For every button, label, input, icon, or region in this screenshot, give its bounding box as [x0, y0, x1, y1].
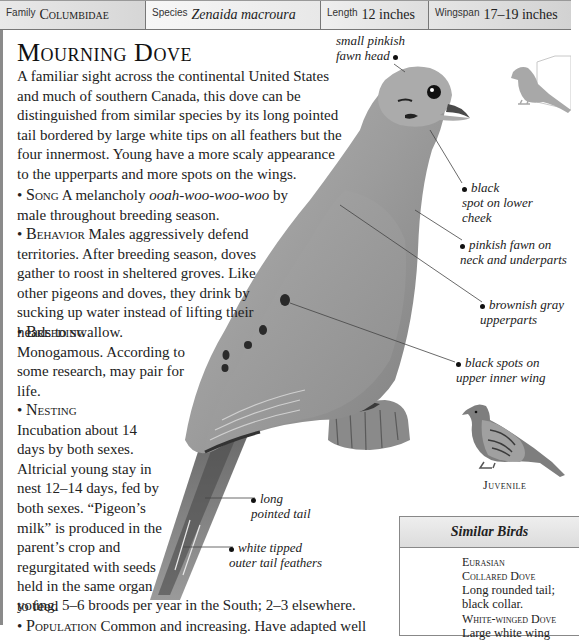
length-value: 12 inches — [362, 7, 415, 23]
annotation-dot-icon — [229, 547, 234, 552]
annotation-dot-icon — [462, 187, 467, 192]
similar-bird-description: Large white wing — [462, 626, 577, 640]
annotation-upperparts: brownish gray upperparts — [480, 297, 564, 327]
behavior-bullet: • — [17, 226, 22, 242]
similar-bird-description: Long rounded tail; black collar. — [462, 583, 577, 611]
annotation-cheek-line2: spot on lower — [462, 195, 533, 210]
page-title: Mourning Dove — [17, 38, 192, 68]
section-song: • Song A melancholy ooah-woo-woo-woo by … — [17, 185, 307, 225]
length-label: Length — [327, 7, 358, 18]
annotation-head: small pinkish fawn head — [336, 33, 405, 63]
page-left-border — [0, 0, 3, 625]
breeding-heading: Breeding — [26, 323, 85, 340]
annotation-tail-line2: pointed tail — [251, 506, 311, 521]
breeding-bullet: • — [17, 324, 22, 340]
nesting-text-continued: young. 5–6 broods per year in the South;… — [17, 596, 417, 616]
perch-stump-icon — [328, 400, 410, 450]
breeding-text: Monogamous. According to some research, … — [17, 344, 185, 399]
annotation-neck-line1: pinkish fawn on — [460, 237, 567, 252]
annotation-tail: long pointed tail — [251, 491, 311, 521]
section-nesting: • Nesting Incubation about 14 days by bo… — [17, 400, 167, 617]
annotation-dot-icon — [456, 362, 461, 367]
nesting-heading: Nesting — [26, 401, 77, 418]
similar-birds-panel: Similar Birds Eurasian Collared Dove Lon… — [399, 516, 579, 636]
juvenile-label: Juvenile — [483, 478, 526, 493]
annotation-cheek-line3: cheek — [462, 210, 533, 225]
wingspan-value: 17–19 inches — [483, 7, 557, 23]
perched-silhouette-icon — [511, 56, 571, 113]
population-heading: Population — [26, 617, 97, 634]
annotation-neck: pinkish fawn on neck and underparts — [460, 237, 567, 267]
nesting-bullet: • — [17, 402, 22, 418]
species-value: Zenaida macroura — [192, 7, 296, 23]
length-cell: Length 12 inches — [321, 1, 429, 29]
annotation-head-line1: small pinkish — [336, 33, 405, 48]
behavior-heading: Behavior — [26, 225, 85, 242]
annotation-dot-icon — [480, 304, 485, 309]
song-heading: Song — [26, 186, 59, 203]
similar-bird-item: Eurasian Collared Dove Long rounded tail… — [462, 555, 577, 611]
annotation-wingspots-line1: black spots on — [456, 355, 546, 370]
annotation-upperparts-line1: brownish gray — [480, 297, 564, 312]
population-text: Common and increasing. Have adapted well — [97, 618, 367, 634]
species-label: Species — [152, 7, 188, 18]
similar-bird-name-line1: Eurasian — [462, 555, 577, 569]
annotation-tail-line1: long — [251, 491, 311, 506]
song-text-before: A melancholy — [59, 187, 149, 203]
annotation-dot-icon — [251, 498, 256, 503]
section-breeding: • Breeding Monogamous. According to some… — [17, 322, 197, 401]
wingspan-cell: Wingspan 17–19 inches — [429, 1, 571, 29]
similar-bird-item: White-winged Dove Large white wing — [462, 612, 577, 640]
song-bullet: • — [17, 187, 22, 203]
nesting-text: Incubation about 14 days by both sexes. … — [17, 422, 162, 614]
species-cell: Species Zenaida macroura — [146, 1, 321, 29]
annotation-tailtips: white tipped outer tail feathers — [229, 540, 322, 570]
annotation-wingspots: black spots on upper inner wing — [456, 355, 546, 385]
wingspan-label: Wingspan — [435, 7, 479, 18]
similar-birds-heading: Similar Birds — [400, 517, 579, 548]
song-call: ooah-woo-woo-woo — [149, 187, 269, 203]
annotation-upperparts-line2: upperparts — [480, 312, 564, 327]
section-population: • Population Common and increasing. Have… — [17, 616, 417, 637]
juvenile-dove-illustration — [462, 404, 565, 477]
family-label: Family — [6, 7, 35, 18]
annotation-neck-line2: neck and underparts — [460, 252, 567, 267]
species-info-bar: Family Columbidae Species Zenaida macrou… — [0, 0, 571, 30]
annotation-wingspots-line2: upper inner wing — [456, 370, 546, 385]
annotation-tailtips-line2: outer tail feathers — [229, 555, 322, 570]
intro-paragraph: A familiar sight across the continental … — [17, 67, 347, 185]
family-value: Columbidae — [39, 7, 108, 23]
annotation-head-line2: fawn head — [336, 48, 405, 63]
annotation-cheek-line1: black — [462, 180, 533, 195]
population-bullet: • — [17, 618, 22, 634]
similar-bird-name-line1: White-winged Dove — [462, 612, 577, 626]
annotation-dot-icon — [460, 244, 465, 249]
annotation-cheek: black spot on lower cheek — [462, 180, 533, 225]
similar-bird-name-line2: Collared Dove — [462, 569, 577, 583]
annotation-dot-icon — [393, 55, 398, 60]
annotation-tailtips-line1: white tipped — [229, 540, 322, 555]
family-cell: Family Columbidae — [0, 1, 146, 29]
